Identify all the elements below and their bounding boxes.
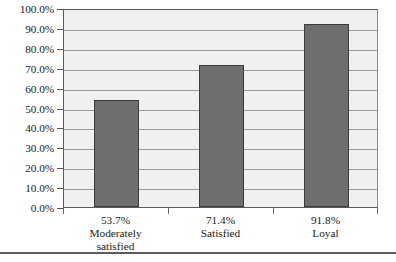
bar — [199, 65, 244, 207]
bar — [94, 100, 139, 207]
y-axis-tick-label: 50.0% — [0, 103, 54, 114]
y-axis-tick-label: 30.0% — [0, 143, 54, 154]
category-label: 53.7%Moderatelysatisfied — [63, 214, 168, 254]
bar — [304, 24, 349, 207]
y-axis-tick-label: 70.0% — [0, 63, 54, 74]
bars-layer — [64, 10, 377, 207]
plot-area — [63, 9, 378, 208]
y-axis-tick-labels: 100.0%90.0%80.0%70.0%60.0%50.0%40.0%30.0… — [0, 9, 54, 208]
y-axis-tick-label: 80.0% — [0, 43, 54, 54]
category-name-label: Moderately — [63, 227, 168, 240]
y-axis-tick-label: 0.0% — [0, 203, 54, 214]
x-axis-category-labels: 53.7%Moderatelysatisfied71.4%Satisfied91… — [63, 214, 378, 254]
y-axis-tick-label: 10.0% — [0, 183, 54, 194]
category-label: 91.8%Loyal — [273, 214, 378, 240]
category-value-label: 71.4% — [168, 214, 273, 227]
y-axis-tick-label: 90.0% — [0, 23, 54, 34]
bottom-divider-rule — [0, 252, 396, 254]
bar-chart-figure: 100.0%90.0%80.0%70.0%60.0%50.0%40.0%30.0… — [0, 0, 396, 262]
category-name-label: Satisfied — [168, 227, 273, 240]
y-axis-tick-label: 20.0% — [0, 163, 54, 174]
category-label: 71.4%Satisfied — [168, 214, 273, 240]
category-value-label: 91.8% — [273, 214, 378, 227]
y-axis-tick-label: 60.0% — [0, 83, 54, 94]
y-axis-tick-label: 100.0% — [0, 4, 54, 15]
category-value-label: 53.7% — [63, 214, 168, 227]
y-axis-tick-label: 40.0% — [0, 123, 54, 134]
category-name-label: Loyal — [273, 227, 378, 240]
